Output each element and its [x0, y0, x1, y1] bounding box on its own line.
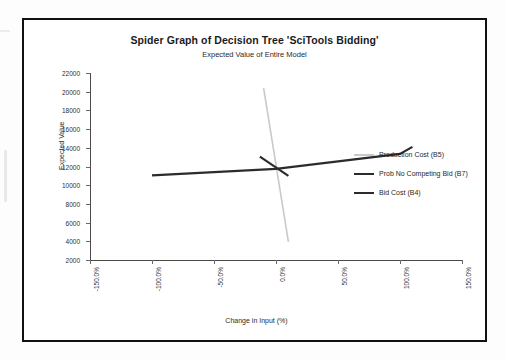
series-line [264, 88, 289, 242]
y-axis-tick-label: 8000 [66, 200, 80, 207]
chart-legend: Production Cost (B5)Prob No Competing Bi… [354, 145, 494, 202]
y-axis-tick-label: 12000 [62, 163, 80, 170]
chart-subtitle: Expected Value of Entire Model [24, 49, 485, 60]
x-axis-tick-label: -150.0% [93, 267, 100, 291]
legend-item: Prob No Competing Bid (B7) [354, 164, 494, 183]
y-axis-tick-label: 18000 [62, 107, 80, 114]
y-axis-tick-label: 22000 [62, 70, 80, 77]
x-axis-tick-label: -100.0% [155, 267, 162, 291]
x-axis-title: Change in Input (%) [24, 317, 489, 324]
y-axis-tick-label: 6000 [66, 219, 80, 226]
scan-artifact-left [4, 150, 7, 202]
legend-color-swatch [354, 192, 374, 194]
x-axis-tick-label: 0.0% [279, 267, 286, 282]
x-axis-tick-label: 50.0% [341, 267, 348, 285]
chart-title: Spider Graph of Decision Tree 'SciTools … [24, 34, 485, 47]
legend-item: Bid Cost (B4) [354, 183, 494, 202]
legend-color-swatch [354, 154, 374, 156]
x-axis-tick [462, 260, 463, 264]
legend-item-label: Prob No Competing Bid (B7) [379, 170, 468, 177]
legend-item-label: Production Cost (B5) [379, 151, 444, 158]
legend-color-swatch [354, 173, 374, 175]
x-axis-tick-label: -50.0% [217, 267, 224, 288]
y-axis-tick-label: 4000 [66, 238, 80, 245]
chart-figure-frame: Spider Graph of Decision Tree 'SciTools … [22, 18, 487, 342]
legend-item-label: Bid Cost (B4) [379, 189, 421, 196]
legend-item: Production Cost (B5) [354, 145, 494, 164]
y-axis-tick-label: 14000 [62, 144, 80, 151]
x-axis-tick-label: 100.0% [403, 267, 410, 289]
y-axis-tick-label: 2000 [66, 257, 80, 264]
scan-artifact-top-left [0, 30, 10, 32]
y-axis-tick-label: 10000 [62, 182, 80, 189]
x-axis-tick-label: 150.0% [465, 267, 472, 289]
y-axis-tick-label: 16000 [62, 126, 80, 133]
y-axis-tick-label: 20000 [62, 88, 80, 95]
series-line [260, 157, 289, 176]
chart-title-block: Spider Graph of Decision Tree 'SciTools … [24, 34, 485, 60]
